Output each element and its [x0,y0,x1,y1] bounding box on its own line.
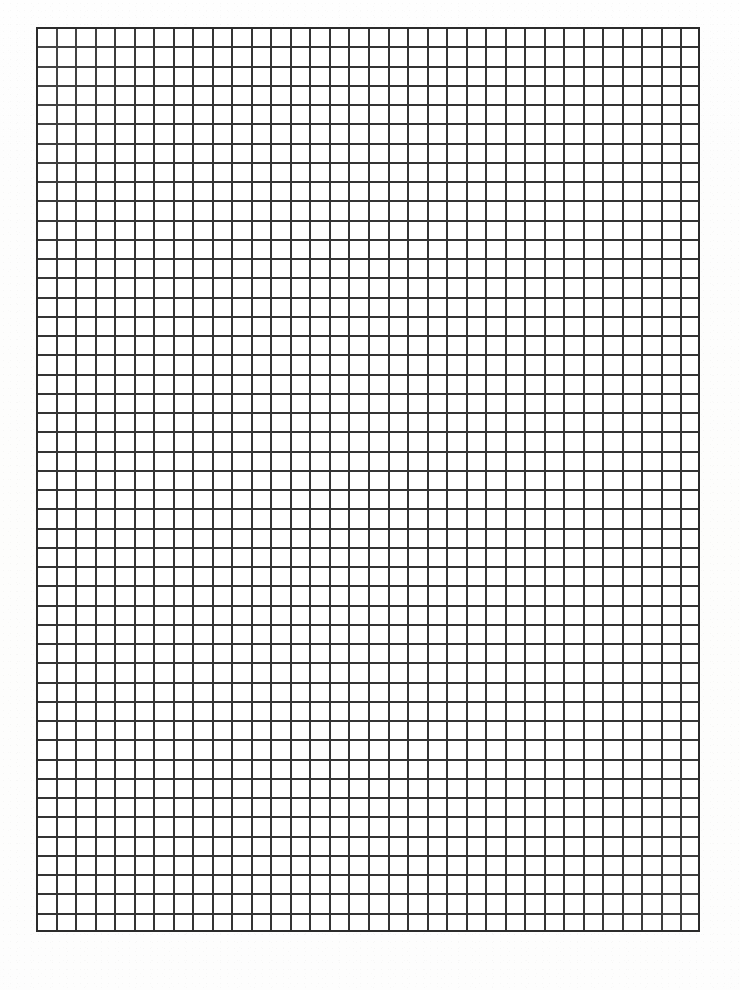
graph-paper-grid [36,27,700,932]
grid-minor-lines [36,27,700,932]
graph-paper-sheet [0,0,740,990]
